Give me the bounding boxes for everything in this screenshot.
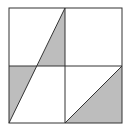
quadrant-diagram	[0, 0, 124, 129]
